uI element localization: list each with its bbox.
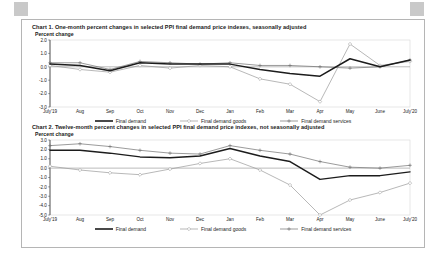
svg-text:May: May <box>346 217 355 222</box>
svg-text:0.0: 0.0 <box>40 65 47 70</box>
svg-text:Aug: Aug <box>76 217 85 222</box>
svg-text:July'20: July'20 <box>403 217 418 222</box>
chart-1-title: Chart 1. One-month percent changes in se… <box>32 24 424 30</box>
legend-label: Final demand goods <box>201 226 246 232</box>
svg-text:Sep: Sep <box>106 109 115 114</box>
screenshot-root: Chart 1. One-month percent changes in se… <box>0 0 447 260</box>
svg-text:Dec: Dec <box>196 109 205 114</box>
svg-text:July'19: July'19 <box>43 217 58 222</box>
svg-text:2.0: 2.0 <box>40 38 47 43</box>
legend-label: Final demand <box>116 226 146 232</box>
svg-text:May: May <box>346 109 355 114</box>
legend-label: Final demand services <box>301 226 351 232</box>
legend-item: Final demand services <box>280 226 351 232</box>
legend-item: Final demand <box>95 226 146 232</box>
svg-text:-2.0: -2.0 <box>39 185 47 190</box>
top-left-marker <box>14 2 28 16</box>
document-frame: Chart 1. One-month percent changes in se… <box>21 19 425 248</box>
svg-text:Feb: Feb <box>256 109 264 114</box>
svg-text:Jan: Jan <box>226 217 234 222</box>
chart-2-legend: Final demandFinal demand goodsFinal dema… <box>22 226 424 232</box>
svg-text:Nov: Nov <box>166 109 175 114</box>
svg-text:Mar: Mar <box>286 217 294 222</box>
svg-text:Oct: Oct <box>136 217 144 222</box>
svg-text:July'19: July'19 <box>43 109 58 114</box>
top-right-marker <box>410 2 424 16</box>
svg-text:Sep: Sep <box>106 217 115 222</box>
svg-text:Nov: Nov <box>166 217 175 222</box>
chart-2-title: Chart 2. Twelve-month percent changes in… <box>32 124 424 130</box>
legend-swatch-final_demand_goods <box>180 226 198 232</box>
svg-text:1.0: 1.0 <box>40 156 47 161</box>
svg-text:Aug: Aug <box>76 109 85 114</box>
legend-item: Final demand goods <box>180 226 246 232</box>
legend-swatch-final_demand_services <box>280 226 298 232</box>
svg-text:-4.0: -4.0 <box>39 203 47 208</box>
chart-1-block: Chart 1. One-month percent changes in se… <box>22 24 424 124</box>
svg-text:Dec: Dec <box>196 217 205 222</box>
legend-swatch-final_demand <box>95 226 113 232</box>
svg-text:Jan: Jan <box>226 109 234 114</box>
svg-text:1.0: 1.0 <box>40 51 47 56</box>
svg-text:Apr: Apr <box>316 109 324 114</box>
chart-2-block: Chart 2. Twelve-month percent changes in… <box>22 124 424 232</box>
svg-text:-2.0: -2.0 <box>39 91 47 96</box>
chart-1-plot: 2.01.00.0-1.0-2.0-3.0July'19AugSepOctNov… <box>22 37 424 117</box>
svg-text:July'20: July'20 <box>403 109 418 114</box>
svg-text:0.0: 0.0 <box>40 166 47 171</box>
svg-text:June: June <box>375 109 385 114</box>
svg-text:-3.0: -3.0 <box>39 194 47 199</box>
svg-text:June: June <box>375 217 385 222</box>
svg-text:-1.0: -1.0 <box>39 78 47 83</box>
svg-text:2.0: 2.0 <box>40 147 47 152</box>
chart-2-plot: 3.02.01.00.0-1.0-2.0-3.0-4.0-5.0July'19A… <box>22 137 424 225</box>
svg-text:Oct: Oct <box>136 109 144 114</box>
svg-text:Feb: Feb <box>256 217 264 222</box>
svg-text:Mar: Mar <box>286 109 294 114</box>
svg-text:-1.0: -1.0 <box>39 175 47 180</box>
svg-text:Apr: Apr <box>316 217 324 222</box>
svg-text:3.0: 3.0 <box>40 138 47 143</box>
